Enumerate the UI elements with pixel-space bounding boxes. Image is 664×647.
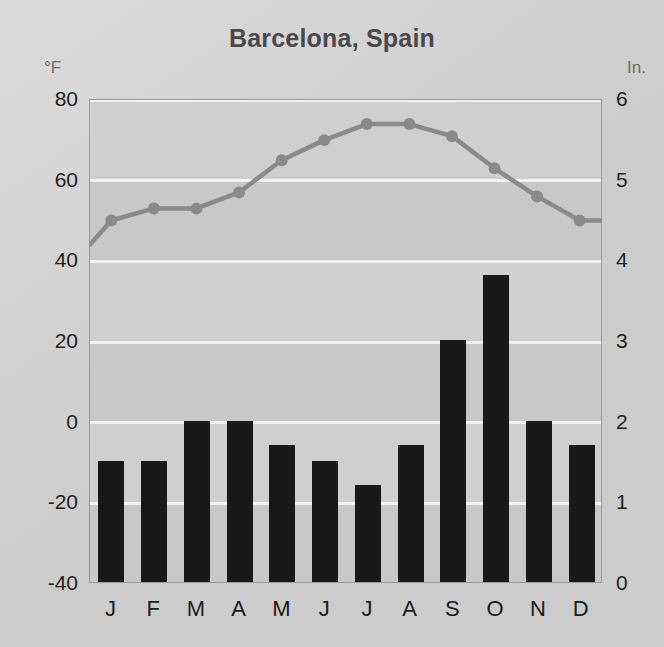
temperature-point [318,134,330,146]
x-axis-tick-label: D [561,596,601,622]
y-axis-left-tick-label: 0 [0,410,78,434]
chart-title: Barcelona, Spain [0,24,664,53]
x-axis-tick-label: A [390,596,430,622]
y-axis-left-tick-label: 80 [0,87,78,111]
y-axis-left-tick-label: -40 [0,571,78,595]
temperature-point [446,130,458,142]
temperature-point [233,186,245,198]
left-axis-unit-label: °F [44,58,61,78]
temperature-point [148,202,160,214]
x-axis-tick-label: A [219,596,259,622]
y-axis-right-tick-label: 5 [616,168,656,192]
x-axis-tick-label: F [133,596,173,622]
x-axis-tick-label: N [518,596,558,622]
temperature-point [403,118,415,130]
x-axis-tick-label: J [347,596,387,622]
temperature-point [574,215,586,227]
temperature-point [361,118,373,130]
x-axis-tick-label: M [176,596,216,622]
y-axis-right-tick-label: 6 [616,87,656,111]
temperature-point [276,154,288,166]
temperature-line [90,124,601,244]
y-axis-right-tick-label: 4 [616,248,656,272]
y-axis-left-tick-label: -20 [0,490,78,514]
temperature-line-svg [90,100,601,582]
right-axis-unit-label: In. [627,58,646,78]
x-axis-tick-label: M [261,596,301,622]
y-axis-right-tick-label: 1 [616,490,656,514]
climate-chart: Barcelona, Spain °F In. 806040200-20-40 … [0,0,664,647]
y-axis-right-tick-label: 2 [616,410,656,434]
x-axis-tick-label: O [475,596,515,622]
x-axis-tick-label: S [432,596,472,622]
temperature-point [105,215,117,227]
y-axis-left-tick-label: 40 [0,248,78,272]
temperature-line-layer [90,100,601,582]
temperature-point [489,162,501,174]
temperature-point [191,202,203,214]
y-axis-left-tick-label: 60 [0,168,78,192]
y-axis-right-tick-label: 0 [616,571,656,595]
y-axis-right-tick-label: 3 [616,329,656,353]
y-axis-left-tick-label: 20 [0,329,78,353]
x-axis-tick-label: J [90,596,130,622]
x-axis-tick-label: J [304,596,344,622]
temperature-point [531,190,543,202]
plot-area [89,99,602,583]
